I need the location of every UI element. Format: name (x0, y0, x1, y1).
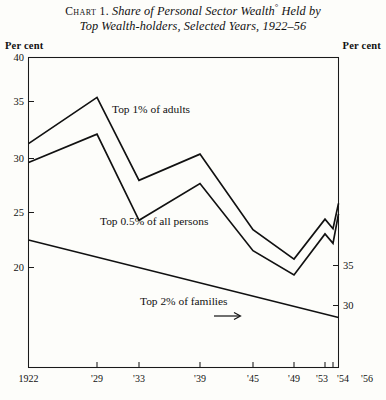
series-line-top-1-percent (29, 97, 339, 259)
left-axis-tick-labels: 40 35 30 25 20 (14, 52, 25, 273)
left-tick-label-2: 30 (14, 153, 25, 164)
left-tick-label-3: 25 (14, 207, 25, 218)
right-tick-label-1: 30 (343, 300, 354, 311)
x-tick-label-3: '39 (194, 373, 206, 384)
x-tick-label-0: 1922 (19, 373, 39, 384)
chart-plot-area: 40 35 30 25 20 35 30 1922 (0, 0, 386, 400)
x-tick-label-4: '45 (247, 373, 259, 384)
x-tick-label-8: '56 (361, 373, 373, 384)
right-axis-tick-labels: 35 30 (343, 260, 354, 311)
x-tick-label-7: '54 (337, 373, 349, 384)
left-tick-label-0: 40 (14, 52, 25, 63)
left-tick-label-4: 20 (14, 262, 25, 273)
series-label-top-0-5-percent: Top 0.5% of all persons (100, 215, 209, 227)
series-label-top-1-percent: Top 1% of adults (112, 103, 191, 115)
x-tick-label-5: '49 (288, 373, 300, 384)
x-tick-label-1: '29 (91, 373, 103, 384)
series-line-top-0-5-percent (29, 134, 339, 275)
x-axis-ticks (29, 362, 339, 368)
arrow-right-icon (214, 313, 241, 320)
right-axis-ticks (333, 266, 339, 306)
left-tick-label-1: 35 (14, 96, 25, 107)
right-tick-label-0: 35 (343, 260, 354, 271)
x-tick-label-2: '33 (133, 373, 145, 384)
x-axis-tick-labels: 1922 '29 '33 '39 '45 '49 '53 '54 '56 (19, 373, 373, 384)
x-tick-label-6: '53 (316, 373, 328, 384)
series-label-top-2-percent: Top 2% of families (140, 295, 228, 307)
